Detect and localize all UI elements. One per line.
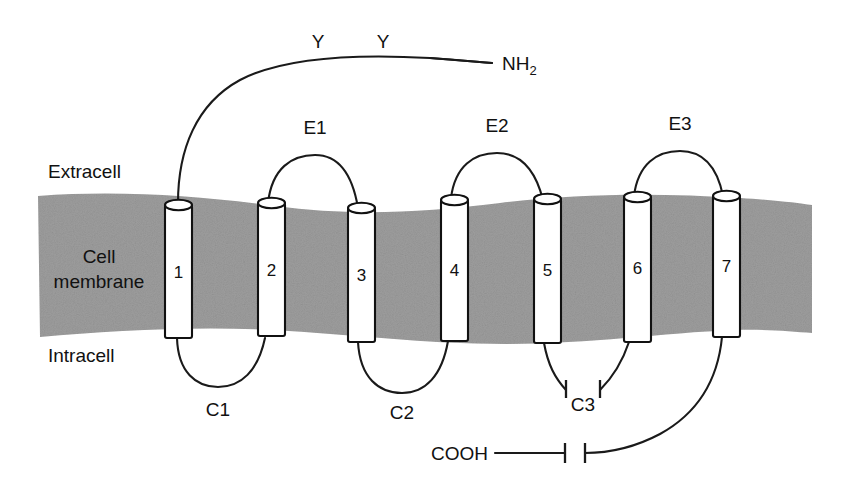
helix-7-number: 7: [722, 257, 731, 276]
helix-2-number: 2: [267, 261, 276, 280]
helix-7-cap: [713, 191, 740, 201]
nh2-terminus-label: NH2: [502, 53, 537, 78]
loop-e3-arc: [634, 151, 723, 196]
extracellular-label: Extracell: [48, 161, 121, 182]
helix-1-number: 1: [174, 263, 183, 282]
cell-membrane-label-line2: membrane: [54, 271, 145, 292]
transmembrane-helix-1[interactable]: 1: [165, 200, 192, 338]
helix-4-number: 4: [450, 261, 459, 280]
cell-membrane-label-line1: Cell: [83, 246, 116, 267]
helix-4-cap: [441, 195, 468, 205]
loop-label-c1: C1: [206, 399, 230, 420]
loop-e2-arc: [451, 153, 543, 200]
nh2-subscript: 2: [529, 63, 536, 78]
transmembrane-helix-5[interactable]: 5: [534, 194, 561, 343]
loop-label-e2: E2: [485, 115, 508, 136]
glycosylation-site-icon-2: Y: [377, 31, 390, 52]
n-terminal-tail: [430, 58, 492, 63]
helix-5-cap: [534, 194, 561, 204]
cooh-terminus-label: COOH: [431, 443, 488, 464]
loop-c2-arc: [358, 341, 448, 393]
loop-c3-left-segment: [544, 343, 566, 390]
intracellular-loops: [177, 338, 629, 398]
n-terminal-line: [178, 56, 492, 203]
loop-label-c2: C2: [390, 402, 414, 423]
c-terminal-curve: [585, 337, 722, 453]
helix-6-number: 6: [633, 259, 642, 278]
loop-label-c3: C3: [571, 394, 595, 415]
helix-3-number: 3: [357, 266, 366, 285]
diagram-canvas: Extracell Cell membrane Intracell NH2 Y …: [0, 0, 850, 483]
loop-c3-right-segment: [600, 342, 629, 390]
helix-3-cap: [348, 203, 375, 213]
svg-text:NH2: NH2: [502, 53, 537, 78]
transmembrane-helix-3[interactable]: 3: [348, 203, 375, 342]
c-terminal-chain: [495, 337, 722, 463]
transmembrane-helix-6[interactable]: 6: [624, 192, 651, 342]
cell-membrane-band: [38, 194, 812, 344]
helix-2-cap: [258, 198, 285, 208]
transmembrane-helix-2[interactable]: 2: [258, 198, 285, 336]
helix-5-number: 5: [543, 261, 552, 280]
intracellular-label: Intracell: [48, 345, 115, 366]
nh2-text: NH: [502, 53, 529, 74]
loop-c1-arc: [177, 338, 265, 387]
loop-label-e3: E3: [668, 113, 691, 134]
helix-6-cap: [624, 192, 651, 202]
transmembrane-helix-4[interactable]: 4: [441, 195, 468, 341]
membrane-shape: [38, 194, 812, 344]
n-terminal-chain: [178, 56, 492, 203]
transmembrane-helix-7[interactable]: 7: [713, 191, 740, 337]
loop-label-e1: E1: [303, 117, 326, 138]
helix-1-cap: [165, 200, 192, 210]
glycosylation-site-icon-1: Y: [312, 31, 325, 52]
receptor-topology-figure: Extracell Cell membrane Intracell NH2 Y …: [0, 0, 850, 483]
